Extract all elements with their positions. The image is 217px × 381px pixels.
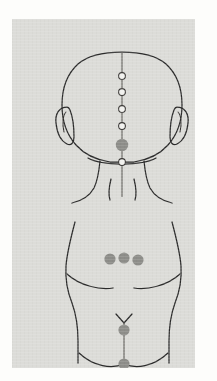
point-head-midline-1[interactable] [119, 73, 126, 80]
point-head-occiput-main[interactable] [116, 139, 128, 151]
figure-posterior-head [56, 52, 188, 203]
point-lumbar-center[interactable] [118, 252, 129, 263]
iliac-crest-left [67, 274, 113, 288]
neck-muscle-crease-left [109, 179, 111, 200]
torso-left-contour [66, 222, 78, 363]
point-lumbar-right[interactable] [132, 254, 143, 265]
point-head-hairline[interactable] [119, 159, 126, 166]
neck-right-trapezius [144, 161, 172, 203]
point-sacral-lower[interactable] [118, 358, 129, 368]
iliac-crest-right [134, 274, 180, 288]
gluteal-fold-left [79, 353, 124, 366]
sacral-y-crease [116, 314, 132, 323]
neck-left-trapezius [72, 161, 100, 203]
point-sacral-upper[interactable] [118, 324, 129, 335]
neck-muscle-crease-right [134, 179, 136, 200]
torso-right-contour [169, 222, 181, 363]
point-head-midline-3[interactable] [119, 106, 126, 113]
figure-lumbosacral-back [66, 222, 181, 368]
figure-panel [12, 19, 195, 368]
point-lumbar-left[interactable] [104, 253, 115, 264]
anatomical-illustration [12, 19, 195, 368]
point-head-midline-2[interactable] [119, 89, 126, 96]
gluteal-fold-right [124, 353, 168, 366]
point-head-midline-4[interactable] [119, 123, 126, 130]
